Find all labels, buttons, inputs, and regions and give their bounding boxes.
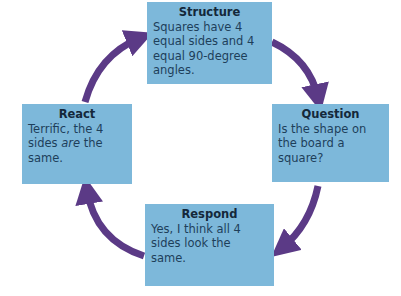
node-title: Question (278, 107, 383, 122)
arrow-structure-to-question (272, 42, 318, 98)
node-title: Structure (153, 5, 266, 20)
node-text: Is the shape on the board a square? (278, 122, 383, 166)
node-title: React (28, 107, 126, 122)
arrow-respond-to-react (87, 190, 144, 256)
node-title: Respond (151, 207, 268, 222)
arrow-react-to-structure (85, 38, 140, 102)
node-respond: Respond Yes, I think all 4 sides look th… (145, 204, 274, 286)
node-question: Question Is the shape on the board a squ… (272, 104, 389, 182)
emphasis-text: are (61, 136, 80, 150)
arrow-question-to-respond (282, 186, 318, 248)
node-text: Yes, I think all 4 sides look the same. (151, 222, 268, 266)
node-text: Terrific, the 4 sides are the same. (28, 122, 126, 166)
node-structure: Structure Squares have 4 equal sides and… (147, 2, 272, 84)
node-react: React Terrific, the 4 sides are the same… (22, 104, 132, 184)
node-text: Squares have 4 equal sides and 4 equal 9… (153, 20, 266, 78)
